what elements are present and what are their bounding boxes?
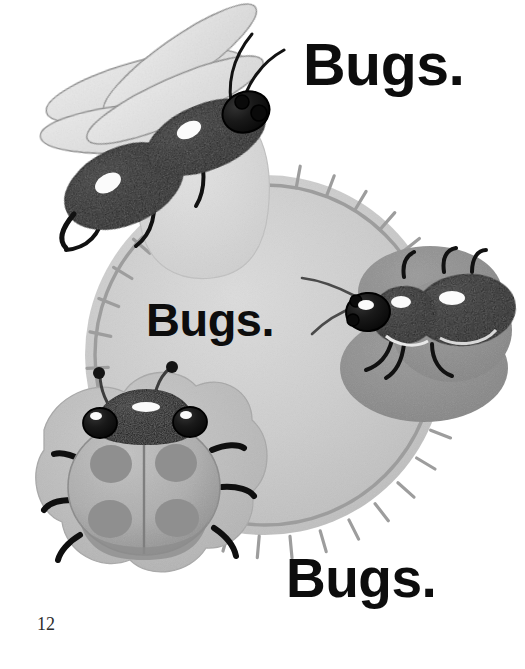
text-bugs-bottom: Bugs.	[286, 551, 436, 606]
text-bugs-middle: Bugs.	[146, 296, 274, 343]
text-bugs-top: Bugs.	[303, 36, 464, 95]
page-number: 12	[37, 615, 55, 633]
book-page: Bugs. Bugs. Bugs. 12	[0, 0, 525, 669]
